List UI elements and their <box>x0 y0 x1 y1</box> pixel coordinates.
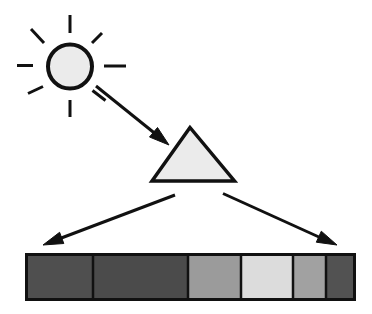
sun-ray-upper-left <box>31 29 44 43</box>
arrow-sun-to-prism <box>96 86 169 145</box>
arrow-shaft <box>96 86 155 134</box>
spectrum-segment-6 <box>326 255 355 300</box>
arrow-shaft <box>223 194 320 238</box>
sun-ray-upper-right <box>92 33 102 43</box>
arrowhead-icon <box>316 231 337 245</box>
spectrum-segment-5 <box>293 255 326 300</box>
arrowhead-icon <box>43 232 64 245</box>
spectrum-bar <box>27 255 355 300</box>
arrow-shaft <box>60 195 175 239</box>
spectrum-segment-3 <box>188 255 241 300</box>
sun-icon <box>17 15 126 117</box>
spectrum-segment-1 <box>27 255 94 300</box>
sun-ray-lower-left <box>28 87 43 94</box>
spectrum-segment-2 <box>93 255 188 300</box>
spectrum-segment-4 <box>241 255 293 300</box>
arrow-prism-to-spectrum-left <box>43 195 175 245</box>
prism-dispersion-diagram <box>0 0 372 314</box>
prism-triangle <box>152 128 235 182</box>
arrow-prism-to-spectrum-right <box>223 194 337 246</box>
sun-disc <box>48 45 92 89</box>
